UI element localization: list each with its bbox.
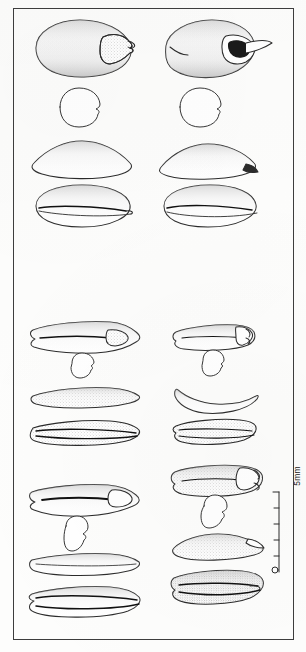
view-dorsal: [164, 185, 257, 227]
specimen-upper-left: [32, 20, 135, 227]
scale-bar-label: 5mm: [292, 466, 302, 486]
illustration-plate: 5mm: [0, 0, 306, 652]
view-cross-section: [201, 495, 227, 528]
view-cross-section: [60, 88, 100, 127]
specimen-upper-right: [160, 20, 272, 227]
view-dorsal: [171, 570, 263, 604]
specimen-mid-right: [173, 325, 258, 445]
view-lateral: [173, 534, 264, 560]
view-dorsal: [173, 419, 256, 444]
view-ventral: [30, 484, 140, 516]
view-ventral: [166, 20, 272, 78]
view-lateral: [31, 387, 140, 408]
view-cross-section: [71, 353, 94, 378]
scale-bar: [272, 492, 279, 573]
view-lateral: [30, 553, 140, 575]
view-cross-section: [180, 88, 221, 127]
specimen-mid-left: [30, 321, 140, 445]
specimen-low-left: [29, 484, 140, 617]
view-lateral: [175, 389, 258, 413]
view-lateral: [160, 144, 258, 179]
scale-zero-marker: [272, 567, 278, 573]
view-dorsal: [29, 586, 140, 617]
view-cross-section: [64, 516, 88, 551]
view-dorsal: [36, 185, 132, 227]
view-lateral: [32, 141, 131, 179]
view-ventral: [171, 465, 262, 496]
view-cross-section: [202, 350, 224, 376]
view-ventral: [173, 325, 255, 351]
specimen-drawings: [0, 0, 306, 652]
view-dorsal: [30, 420, 139, 445]
specimen-low-right: [171, 465, 264, 604]
view-ventral: [31, 321, 140, 353]
view-ventral: [36, 20, 135, 77]
